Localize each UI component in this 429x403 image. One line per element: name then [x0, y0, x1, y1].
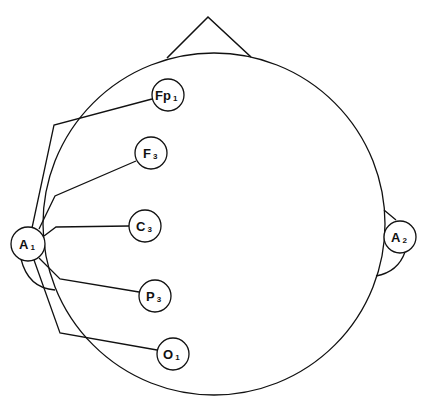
electrode-p3: P3: [139, 280, 171, 312]
head-outline: [43, 53, 385, 395]
connection-o1-a1: [34, 260, 157, 350]
connection-c3-a1: [44, 226, 129, 236]
electrode-a2: A2: [384, 221, 416, 253]
electrode-o1: O1: [157, 338, 189, 370]
electrode-a1: A1: [11, 227, 45, 261]
connection-f3-a1: [39, 161, 136, 229]
connection-fp1-a1: [32, 99, 152, 228]
electrode-fp1: Fp1: [152, 79, 184, 111]
connection-p3-a1: [39, 258, 139, 292]
electrode-c3: C3: [129, 210, 161, 242]
left-ear-outline: [21, 259, 55, 290]
electrode-f3: F3: [135, 137, 167, 169]
eeg-montage-diagram: Fp1 F3 C3 P3 O1 A1 A2: [0, 0, 429, 403]
nose-outline: [167, 17, 251, 58]
